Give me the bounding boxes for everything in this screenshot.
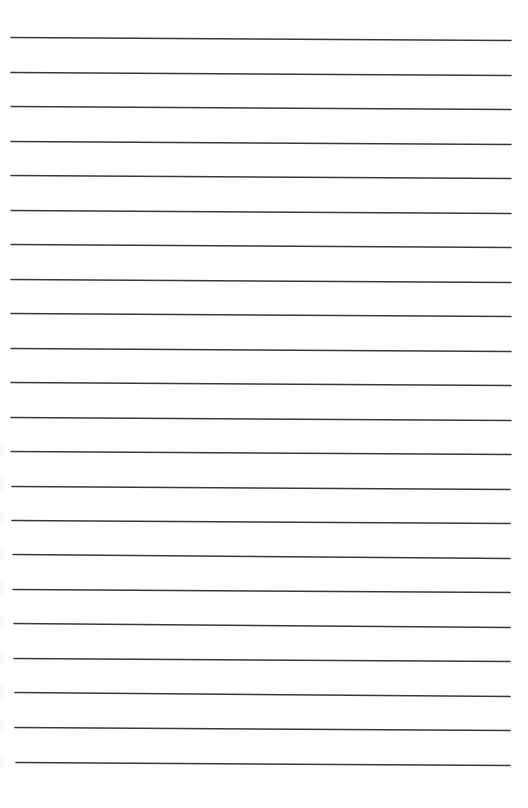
ruled-line-20 <box>15 693 510 697</box>
ruled-line-8 <box>11 280 511 283</box>
ruled-line-2 <box>11 73 511 76</box>
binding-hole-shadow <box>0 510 10 528</box>
ruled-line-12 <box>11 418 511 421</box>
ruled-line-4 <box>11 142 511 145</box>
ruled-line-21 <box>15 728 510 731</box>
binding-hole-shadow <box>0 682 10 700</box>
lined-paper-sheet <box>0 0 528 808</box>
ruled-line-5 <box>11 176 511 179</box>
ruled-line-19 <box>14 659 510 662</box>
binding-hole-shadow <box>0 441 10 459</box>
ruled-line-13 <box>11 452 511 455</box>
ruled-line-1 <box>11 38 511 41</box>
ruled-line-22 <box>16 763 510 766</box>
ruled-line-14 <box>12 487 510 490</box>
ruled-line-10 <box>11 349 511 352</box>
ruled-line-group <box>11 38 511 766</box>
ruled-line-3 <box>11 107 511 110</box>
binding-hole-shadow <box>0 544 10 562</box>
ruled-line-16 <box>13 555 510 559</box>
binding-hole-shadow <box>0 648 10 666</box>
binding-hole-shadow <box>0 579 10 597</box>
ruled-line-6 <box>11 211 511 214</box>
ruled-line-18 <box>14 624 510 628</box>
binding-hole-shadows <box>0 441 10 770</box>
ruled-line-9 <box>11 314 511 317</box>
ruled-lines <box>0 0 528 808</box>
ruled-line-11 <box>11 383 511 386</box>
binding-hole-shadow <box>0 717 10 735</box>
binding-hole-shadow <box>0 476 10 494</box>
ruled-line-7 <box>11 245 511 248</box>
ruled-line-17 <box>13 590 510 593</box>
binding-hole-shadow <box>0 613 10 631</box>
binding-hole-shadow <box>0 752 10 770</box>
ruled-line-15 <box>12 521 510 524</box>
